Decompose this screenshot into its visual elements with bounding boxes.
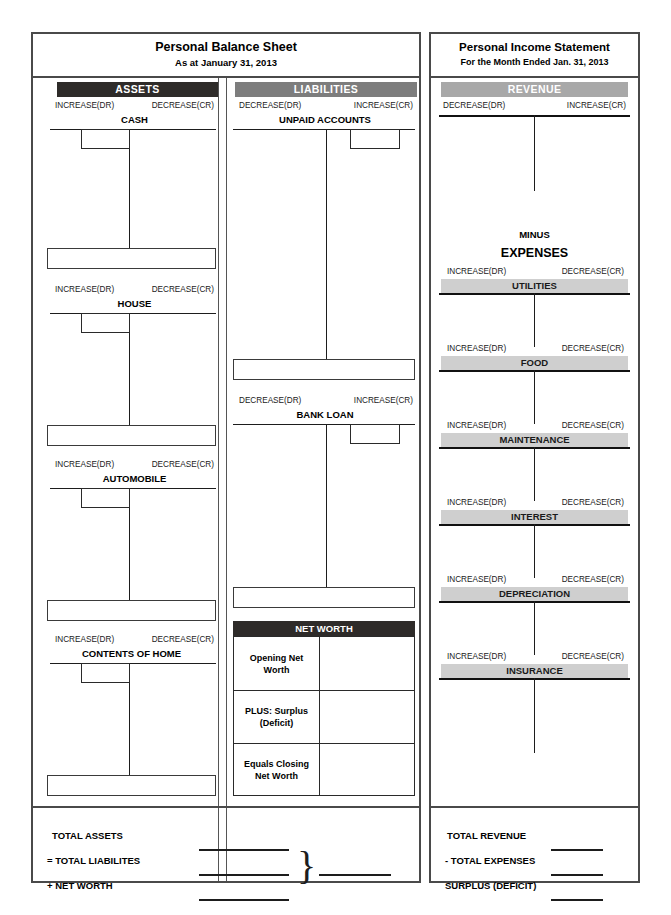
net-worth-section: NET WORTH Opening Net Worth PLUS: Surplu… [233,621,415,796]
expenses-dr-label: INCREASE(DR) [447,652,506,661]
total-assets-label: TOTAL ASSETS [52,830,123,841]
total-revenue-rule [551,849,603,851]
expenses-dr-label: INCREASE(DR) [447,267,506,276]
totals-brace: } [297,846,316,886]
total-expenses-label: - TOTAL EXPENSES [445,855,535,866]
liabilities-cr-label: INCREASE(CR) [354,101,413,110]
assets-cr-label: DECREASE(CR) [152,460,214,469]
closing-balance-box-unpaid-accounts[interactable] [233,359,415,380]
total-assets-rule [199,849,289,851]
assets-cr-label: DECREASE(CR) [152,101,214,110]
assets-dr-label: INCREASE(DR) [55,101,114,110]
assets-cr-label: DECREASE(CR) [152,635,214,644]
t-stem-bank-loan [326,424,327,588]
expenses-dr-label: INCREASE(DR) [447,575,506,584]
totals-result-rule [319,874,391,876]
closing-balance-box-automobile[interactable] [47,600,216,621]
expense-banner-insurance: INSURANCE [441,664,628,678]
income-statement-title-main: Personal Income Statement [433,40,636,55]
assets-dr-label: INCREASE(DR) [55,460,114,469]
total-revenue-label: TOTAL REVENUE [447,830,526,841]
t-top-house [50,313,216,314]
revenue-dr-label: DECREASE(DR) [443,101,505,110]
surplus-deficit-label: SURPLUS (DEFICIT) [445,880,536,891]
net-worth-row: PLUS: Surplus (Deficit) [234,690,414,743]
closing-balance-box-contents-of-home[interactable] [47,775,216,796]
liabilities-cr-label: INCREASE(CR) [354,396,413,405]
column-divider-left [218,78,219,881]
income-statement-panel: Personal Income Statement For the Month … [429,32,640,883]
entry-box-contents-of-home[interactable] [81,663,130,683]
t-top-automobile [50,488,216,489]
minus-label: MINUS [431,229,638,240]
account-title-cash: CASH [55,114,214,125]
net-worth-row: Opening Net Worth [234,637,414,690]
net-worth-table: Opening Net Worth PLUS: Surplus (Deficit… [233,636,415,796]
balance-sheet-title-sub: As at January 31, 2013 [35,56,417,69]
net-worth-row: Equals Closing Net Worth [234,743,414,796]
net-worth-value-surplus[interactable] [320,691,414,743]
expenses-label: EXPENSES [431,246,638,260]
expenses-cr-label: DECREASE(CR) [562,421,624,430]
expenses-cr-label: DECREASE(CR) [562,652,624,661]
entry-box-unpaid-accounts[interactable] [350,129,400,149]
revenue-banner: REVENUE [441,82,628,97]
total-liabilities-rule [199,874,289,876]
net-worth-label-surplus: PLUS: Surplus (Deficit) [234,691,320,743]
expense-stem-maintenance [534,447,535,501]
net-worth-value-opening[interactable] [320,637,414,690]
net-worth-value-closing[interactable] [320,744,414,796]
expense-banner-maintenance: MAINTENANCE [441,433,628,447]
net-worth-label-closing: Equals Closing Net Worth [234,744,320,796]
closing-balance-box-house[interactable] [47,425,216,446]
expense-stem-depreciation [534,601,535,655]
entry-box-cash[interactable] [81,129,130,149]
net-worth-label-opening: Opening Net Worth [234,637,320,690]
total-liabilities-label: = TOTAL LIABILITES [47,855,140,866]
income-statement-body: REVENUE DECREASE(DR) INCREASE(CR) MINUS … [431,78,638,881]
revenue-cr-label: INCREASE(CR) [567,101,626,110]
balance-sheet-panel: Personal Balance Sheet As at January 31,… [31,32,421,883]
net-worth-banner: NET WORTH [233,621,415,636]
entry-box-house[interactable] [81,313,130,333]
total-expenses-rule [551,874,603,876]
balance-sheet-totals: TOTAL ASSETS = TOTAL LIABILITES + NET WO… [33,806,419,881]
t-top-contents-of-home [50,663,216,664]
expenses-dr-label: INCREASE(DR) [447,498,506,507]
revenue-stem [534,115,535,191]
assets-cr-label: DECREASE(CR) [152,285,214,294]
assets-dr-label: INCREASE(DR) [55,285,114,294]
account-title-automobile: AUTOMOBILE [55,473,214,484]
expense-banner-utilities: UTILITIES [441,279,628,293]
expense-banner-food: FOOD [441,356,628,370]
account-title-house: HOUSE [55,298,214,309]
income-statement-title: Personal Income Statement For the Month … [431,34,638,78]
entry-box-automobile[interactable] [81,488,130,508]
assets-dr-label: INCREASE(DR) [55,635,114,644]
expenses-cr-label: DECREASE(CR) [562,344,624,353]
income-statement-title-sub: For the Month Ended Jan. 31, 2013 [433,56,636,69]
assets-banner: ASSETS [57,82,218,97]
account-title-bank-loan: BANK LOAN [235,409,415,420]
expense-banner-depreciation: DEPRECIATION [441,587,628,601]
closing-balance-box-cash[interactable] [47,248,216,269]
expense-stem-utilities [534,293,535,347]
expense-stem-interest [534,524,535,578]
balance-sheet-title: Personal Balance Sheet As at January 31,… [33,34,419,78]
balance-sheet-body: ASSETS INCREASE(DR) DECREASE(CR) CASH IN… [33,78,419,881]
expenses-cr-label: DECREASE(CR) [562,575,624,584]
closing-balance-box-bank-loan[interactable] [233,587,415,608]
income-statement-totals: TOTAL REVENUE - TOTAL EXPENSES SURPLUS (… [431,806,638,881]
t-top-cash [50,129,216,130]
liabilities-column: LIABILITIES DECREASE(DR) INCREASE(CR) UN… [227,78,421,881]
expense-banner-interest: INTEREST [441,510,628,524]
entry-box-bank-loan[interactable] [350,424,400,444]
expense-stem-insurance [534,678,535,753]
expenses-dr-label: INCREASE(DR) [447,344,506,353]
account-title-contents-of-home: CONTENTS OF HOME [47,648,216,659]
expenses-cr-label: DECREASE(CR) [562,498,624,507]
account-title-unpaid-accounts: UNPAID ACCOUNTS [235,114,415,125]
t-stem-unpaid-accounts [326,129,327,360]
net-worth-total-rule [199,899,289,901]
expenses-dr-label: INCREASE(DR) [447,421,506,430]
